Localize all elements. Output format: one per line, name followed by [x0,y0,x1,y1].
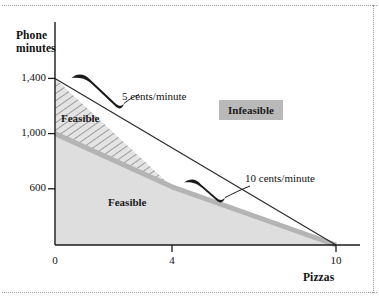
rate-label-five-cents: 5 cents/minute [122,90,186,102]
x-tick-label-0: 0 [44,254,66,266]
budget-constraint-plot [0,0,379,297]
figure-container: Phone minutes Pizzas 1,400 1,000 600 0 4… [0,0,379,297]
feasible-region-label-lower: Feasible [108,196,147,208]
y-axis-title: Phone minutes [16,29,56,55]
feasible-region-label-upper: Feasible [61,112,100,124]
y-axis-title-line1: Phone [16,29,56,42]
x-tick-label-10: 10 [325,254,347,266]
y-tick-label-1400: 1,400 [8,71,46,83]
y-tick-label-600: 600 [8,181,46,193]
x-tick-label-4: 4 [161,254,183,266]
y-axis-title-line2: minutes [16,42,56,55]
y-tick-label-1000: 1,000 [8,126,46,138]
x-axis-title: Pizzas [303,271,334,284]
infeasible-region-label: Infeasible [219,100,283,120]
rate-label-ten-cents: 10 cents/minute [245,172,315,184]
